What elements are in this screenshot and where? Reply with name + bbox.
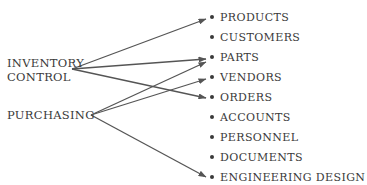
target-orders: ORDERS bbox=[210, 91, 272, 105]
target-label: ACCOUNTS bbox=[220, 111, 291, 124]
bullet-icon bbox=[210, 75, 214, 79]
bullet-icon bbox=[210, 155, 214, 159]
source-inventory-control: INVENTORY CONTROL bbox=[7, 56, 84, 84]
arrows-layer bbox=[0, 0, 367, 185]
target-documents: DOCUMENTS bbox=[210, 151, 303, 165]
edge-inventory-products bbox=[72, 19, 206, 69]
bullet-icon bbox=[210, 35, 214, 39]
edge-purchasing-vendors bbox=[91, 79, 206, 115]
bullet-icon bbox=[210, 115, 214, 119]
target-label: CUSTOMERS bbox=[220, 31, 300, 44]
source-label-line: CONTROL bbox=[7, 70, 84, 84]
bullet-icon bbox=[210, 135, 214, 139]
edge-purchasing-engineering-design bbox=[91, 115, 206, 177]
target-parts: PARTS bbox=[210, 51, 259, 65]
target-label: PARTS bbox=[220, 51, 259, 64]
source-label-line: INVENTORY bbox=[7, 56, 84, 70]
target-label: VENDORS bbox=[220, 71, 282, 84]
target-engineering-design: ENGINEERING DESIGN bbox=[210, 171, 365, 185]
source-purchasing: PURCHASING bbox=[7, 108, 95, 122]
bullet-icon bbox=[210, 175, 214, 179]
bullet-icon bbox=[210, 55, 214, 59]
target-personnel: PERSONNEL bbox=[210, 131, 298, 145]
target-accounts: ACCOUNTS bbox=[210, 111, 291, 125]
target-label: PRODUCTS bbox=[220, 11, 289, 24]
edge-inventory-parts bbox=[72, 59, 206, 69]
target-products: PRODUCTS bbox=[210, 11, 289, 25]
target-label: PERSONNEL bbox=[220, 131, 298, 144]
target-label: DOCUMENTS bbox=[220, 151, 303, 164]
edge-purchasing-parts bbox=[91, 62, 206, 115]
edge-inventory-orders bbox=[72, 69, 206, 98]
target-customers: CUSTOMERS bbox=[210, 31, 300, 45]
bullet-icon bbox=[210, 15, 214, 19]
target-label: ENGINEERING DESIGN bbox=[220, 171, 365, 184]
target-vendors: VENDORS bbox=[210, 71, 282, 85]
target-label: ORDERS bbox=[220, 91, 272, 104]
bullet-icon bbox=[210, 95, 214, 99]
source-label-line: PURCHASING bbox=[7, 108, 95, 122]
